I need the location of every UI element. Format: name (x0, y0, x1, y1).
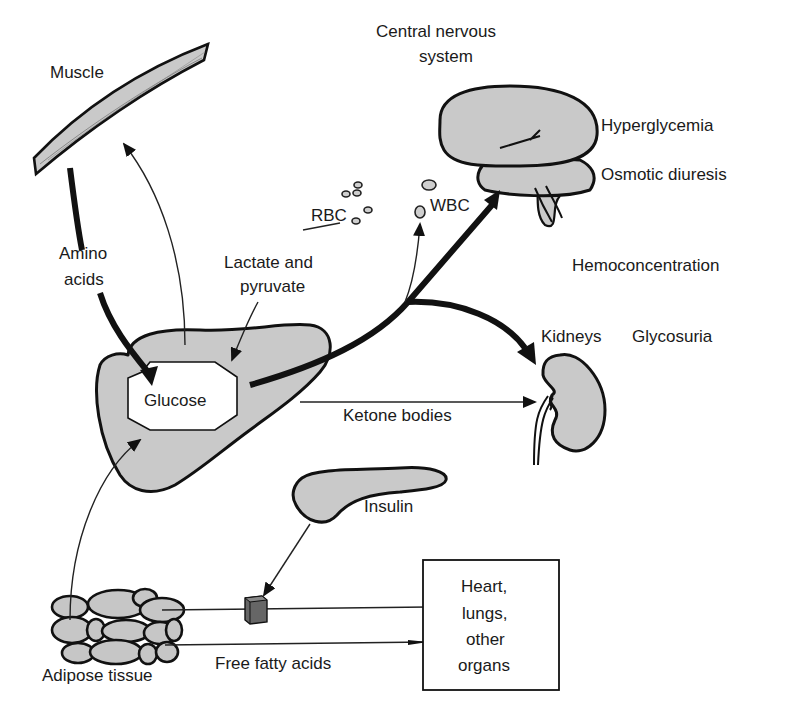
glucose-to-kidney-arrow (408, 302, 525, 348)
kidney-organ (534, 354, 605, 465)
glucose-label: Glucose (144, 391, 206, 410)
diabetes-metabolism-diagram: Muscle Central nervous system Hyperglyce… (0, 0, 785, 722)
hyperglycemia-label: Hyperglycemia (601, 116, 714, 135)
lactate-label-line2: pyruvate (240, 277, 305, 296)
insulin-block-icon (245, 596, 267, 624)
ketone-bodies-label: Ketone bodies (343, 406, 452, 425)
ffa-upper-line (162, 607, 428, 610)
organs-label-line4: organs (458, 656, 510, 675)
insulin-arrow (264, 524, 310, 595)
wbc-label: WBC (430, 196, 470, 215)
cns-label-line1: Central nervous (376, 22, 496, 41)
adipose-organ (52, 589, 184, 664)
lactate-label-line1: Lactate and (224, 253, 313, 272)
liver-to-muscle-arrow (124, 144, 185, 345)
insulin-label: Insulin (364, 497, 413, 516)
organs-label-line2: lungs, (462, 604, 507, 623)
hemoconcentration-label: Hemoconcentration (572, 256, 719, 275)
ffa-label: Free fatty acids (215, 654, 331, 673)
organs-label-line1: Heart, (461, 577, 507, 596)
adipose-label: Adipose tissue (42, 666, 153, 685)
amino-acids-label-line2: acids (64, 270, 104, 289)
cns-label-line2: system (419, 47, 473, 66)
osmotic-diuresis-label: Osmotic diuresis (601, 165, 727, 184)
ffa-lower-line (165, 642, 428, 645)
rbc-label: RBC (311, 206, 347, 225)
glycosuria-label: Glycosuria (632, 327, 713, 346)
kidneys-label: Kidneys (541, 327, 601, 346)
organs-label-line3: other (466, 630, 505, 649)
muscle-label: Muscle (50, 63, 104, 82)
amino-acids-label-line1: Amino (59, 244, 107, 263)
